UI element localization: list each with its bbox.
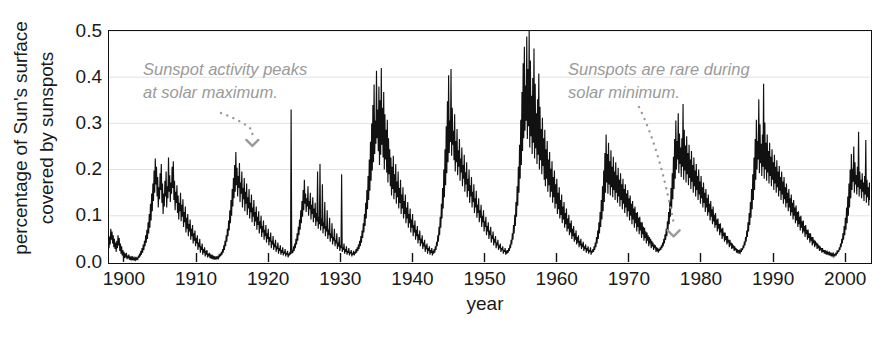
y-axis-title-line1: percentage of Sun's surface: [8, 21, 34, 254]
y-tick-label: 0.3: [58, 112, 102, 134]
annotation-solar-minimum: Sunspots are rare during solar minimum.: [568, 58, 750, 104]
x-axis-title-text: year: [467, 293, 504, 315]
x-tick-label: 1920: [247, 268, 289, 290]
x-axis-title: year: [0, 293, 886, 315]
x-tick-label: 1940: [391, 268, 433, 290]
x-tick-label: 1930: [319, 268, 361, 290]
x-tick-label: 1980: [680, 268, 722, 290]
annotation-solar-maximum: Sunspot activity peaks at solar maximum.: [143, 58, 307, 104]
x-tick-label: 2000: [824, 268, 866, 290]
sunspot-chart-figure: percentage of Sun's surface covered by s…: [0, 0, 886, 343]
y-tick-label: 0.5: [58, 20, 102, 42]
x-tick-label: 1970: [608, 268, 650, 290]
x-tick-label: 1900: [103, 268, 145, 290]
x-tick-label: 1950: [463, 268, 505, 290]
y-tick-label: 0.4: [58, 66, 102, 88]
x-tick-label: 1990: [752, 268, 794, 290]
x-axis-tick-labels: 1900191019201930194019501960197019801990…: [0, 268, 886, 294]
x-tick-label: 1910: [175, 268, 217, 290]
x-tick-label: 1960: [536, 268, 578, 290]
y-tick-label: 0.1: [58, 204, 102, 226]
y-tick-label: 0.2: [58, 158, 102, 180]
